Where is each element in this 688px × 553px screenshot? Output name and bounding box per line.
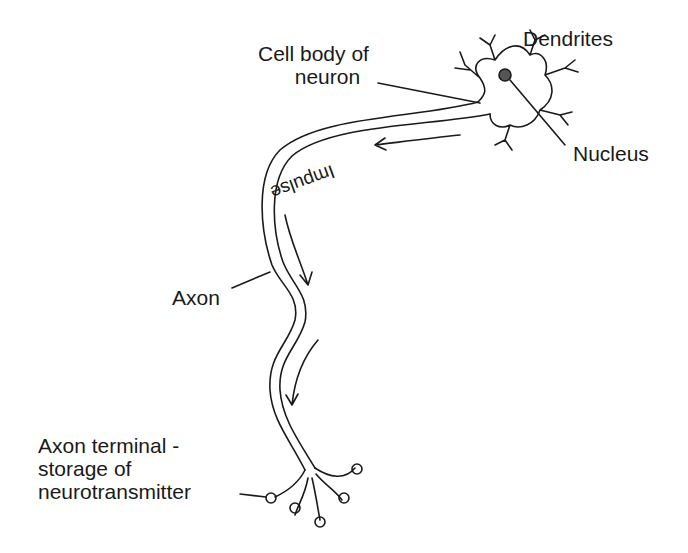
axon-label: Axon — [172, 286, 220, 309]
impulse-label: Impulse — [268, 161, 338, 203]
axon-inner — [274, 114, 490, 468]
axon-terminal-label: Axon terminal - storage of neurotransmit… — [38, 434, 191, 503]
cell-body-label: Cell body of neuron — [258, 42, 369, 88]
axon-outer — [262, 102, 478, 470]
nucleus-label: Nucleus — [573, 142, 649, 165]
dendrites-label: Dendrites — [523, 27, 613, 50]
terminal-branches — [275, 468, 355, 520]
